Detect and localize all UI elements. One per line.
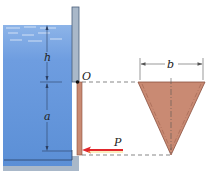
- water: [3, 25, 72, 166]
- tank: [3, 25, 79, 171]
- vertical-wall: [72, 7, 79, 82]
- label-b: b: [167, 58, 174, 71]
- hinge-point: [76, 80, 80, 84]
- gate-front-view: [138, 78, 205, 155]
- label-a: a: [44, 110, 51, 123]
- label-h: h: [44, 51, 51, 64]
- gate-side-view: [77, 82, 82, 155]
- label-P: P: [113, 136, 122, 149]
- label-O: O: [82, 70, 91, 83]
- diagram-canvas: O h a P b: [0, 0, 211, 188]
